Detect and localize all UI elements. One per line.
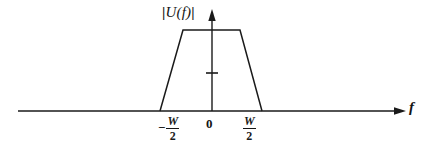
tick-label-origin: 0	[206, 117, 213, 130]
fraction-denominator: 2	[246, 130, 252, 142]
y-axis-label-right-bar: |	[191, 4, 195, 20]
y-axis-arrowhead	[208, 9, 215, 21]
tick-label-neg-half-w: − W 2	[158, 115, 179, 142]
fraction-numerator: W	[243, 115, 256, 127]
spectrum-figure: |U(f)| f 0 − W 2 W 2	[0, 0, 430, 147]
vertical-axis	[208, 9, 215, 111]
tick-label-pos-half-w: W 2	[243, 115, 256, 142]
fraction-denominator: 2	[170, 130, 176, 142]
x-axis-label: f	[409, 100, 414, 115]
y-axis-label: |U(f)|	[162, 5, 195, 20]
figure-canvas	[0, 0, 430, 147]
fraction-pos-half-w: W 2	[243, 115, 256, 142]
spectrum-trapezoid	[160, 30, 262, 111]
minus-sign: −	[158, 120, 165, 137]
y-axis-label-function: U(f)	[166, 4, 192, 20]
x-axis-arrowhead	[394, 107, 406, 115]
fraction-neg-half-w: W 2	[166, 115, 179, 142]
fraction-numerator: W	[166, 115, 179, 127]
